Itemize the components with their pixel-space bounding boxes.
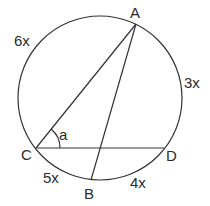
arc-label-ca: 6x [14, 32, 30, 49]
point-label-a: A [130, 4, 140, 21]
circle [18, 16, 182, 180]
point-label-b: B [84, 185, 94, 202]
angle-label-a: a [59, 126, 68, 143]
segment-ab [91, 24, 136, 180]
arc-label-ad: 3x [184, 74, 200, 91]
geometry-diagram: A B C D 6x 3x 4x 5x a [0, 0, 210, 206]
point-label-d: D [166, 147, 177, 164]
arc-label-bc: 5x [43, 169, 59, 186]
point-label-c: C [21, 146, 32, 163]
arc-label-db: 4x [130, 174, 146, 191]
